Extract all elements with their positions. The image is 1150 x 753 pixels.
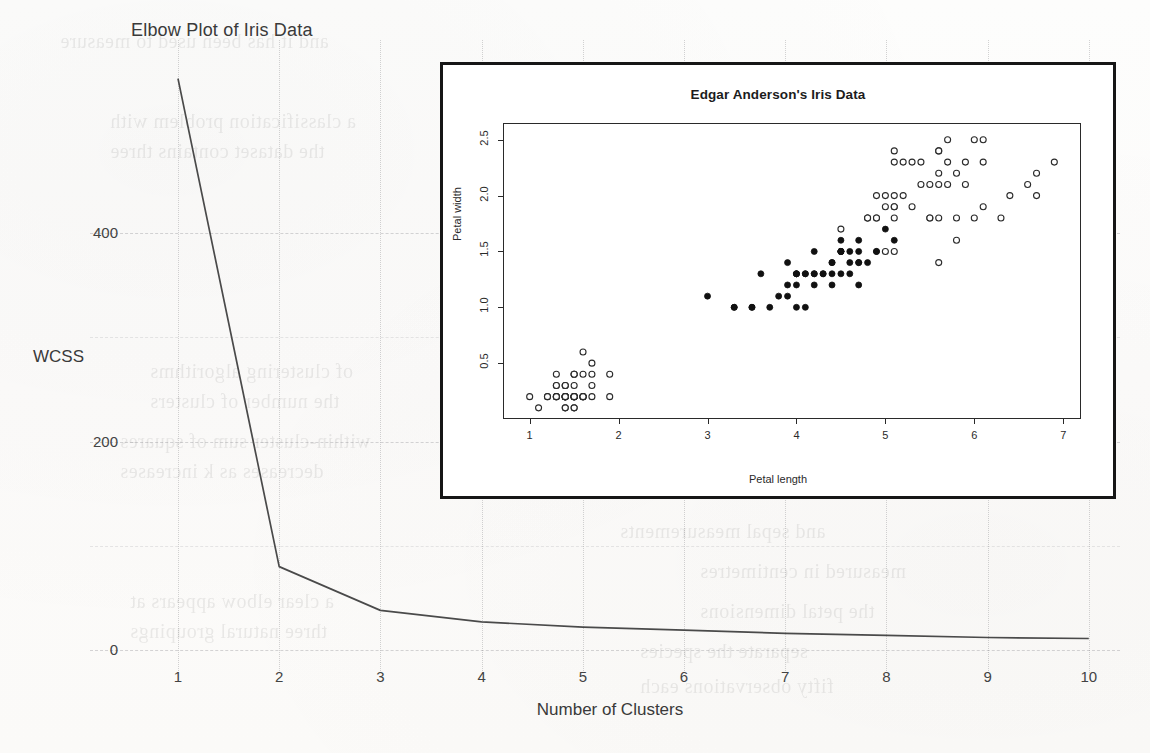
scatter-point-setosa (562, 405, 568, 411)
scatter-point-virginica (918, 159, 924, 165)
scatter-point-versicolor (811, 282, 817, 288)
iris-y-axis-label: Petal width (451, 187, 463, 241)
scatter-point-setosa (571, 405, 577, 411)
iris-x-tick-label: 5 (875, 429, 895, 441)
scatter-point-virginica (1007, 193, 1013, 199)
scatter-point-virginica (980, 137, 986, 143)
iris-x-tick-mark (885, 419, 886, 424)
scatter-point-setosa (580, 349, 586, 355)
elbow-y-tick-label: 400 (58, 224, 118, 241)
scatter-point-virginica (945, 181, 951, 187)
scatter-point-virginica (954, 215, 960, 221)
elbow-gridline-vertical (279, 40, 280, 673)
scatter-point-versicolor (838, 271, 844, 277)
scatter-point-virginica (927, 215, 933, 221)
page-title: Elbow Plot of Iris Data (131, 20, 313, 41)
scatter-point-versicolor (749, 304, 755, 310)
iris-scatter-points (503, 123, 1081, 419)
scatter-point-virginica (962, 159, 968, 165)
scatter-point-virginica (1051, 159, 1057, 165)
scatter-point-virginica (954, 170, 960, 176)
scatter-point-setosa (571, 394, 577, 400)
scatter-point-versicolor (838, 248, 844, 254)
scatter-point-setosa (553, 394, 559, 400)
scatter-point-setosa (527, 394, 533, 400)
scatter-point-versicolor (767, 304, 773, 310)
scatter-point-versicolor (856, 282, 862, 288)
scatter-point-setosa (589, 360, 595, 366)
scatter-point-virginica (838, 226, 844, 232)
elbow-y-tick-label: 200 (58, 433, 118, 450)
iris-x-tick-mark (796, 419, 797, 424)
scatter-point-virginica (900, 193, 906, 199)
elbow-gridline-horizontal (90, 650, 1120, 651)
scatter-point-setosa (589, 382, 595, 388)
scatter-point-virginica (900, 159, 906, 165)
scatter-point-virginica (936, 170, 942, 176)
scatter-point-versicolor (856, 248, 862, 254)
scatter-point-virginica (980, 159, 986, 165)
scatter-point-virginica (971, 137, 977, 143)
elbow-x-tick-label: 10 (1074, 668, 1104, 685)
iris-x-tick-label: 6 (964, 429, 984, 441)
scatter-point-virginica (936, 260, 942, 266)
scatter-point-versicolor (847, 260, 853, 266)
elbow-x-tick-label: 6 (669, 668, 699, 685)
scatter-point-virginica (1025, 181, 1031, 187)
scatter-point-versicolor (785, 293, 791, 299)
scatter-point-versicolor (785, 260, 791, 266)
scatter-point-virginica (891, 159, 897, 165)
scatter-point-setosa (580, 371, 586, 377)
scatter-point-virginica (882, 248, 888, 254)
iris-y-tick-label: 1.0 (478, 292, 490, 318)
scatter-point-versicolor (776, 293, 782, 299)
iris-x-tick-mark (619, 419, 620, 424)
scatter-point-virginica (936, 181, 942, 187)
scatter-point-setosa (580, 394, 586, 400)
scatter-point-virginica (891, 148, 897, 154)
scatter-point-virginica (945, 137, 951, 143)
iris-x-tick-label: 1 (520, 429, 540, 441)
scatter-point-setosa (607, 394, 613, 400)
scatter-point-virginica (891, 248, 897, 254)
iris-x-tick-label: 2 (609, 429, 629, 441)
scatter-point-virginica (891, 193, 897, 199)
iris-inset-figure: Edgar Anderson's Iris Data 0.51.01.52.02… (440, 62, 1116, 499)
scatter-point-virginica (1034, 193, 1040, 199)
iris-x-tick-mark (1063, 419, 1064, 424)
scatter-point-versicolor (891, 237, 897, 243)
scatter-point-versicolor (705, 293, 711, 299)
scatter-point-virginica (1034, 170, 1040, 176)
elbow-gridline-vertical (380, 40, 381, 673)
scatter-point-versicolor (802, 271, 808, 277)
scatter-point-virginica (936, 215, 942, 221)
scatter-point-virginica (865, 215, 871, 221)
scatter-point-virginica (909, 204, 915, 210)
scatter-point-setosa (607, 371, 613, 377)
scatter-point-virginica (971, 215, 977, 221)
iris-x-tick-label: 7 (1053, 429, 1073, 441)
scatter-point-versicolor (882, 226, 888, 232)
scatter-point-versicolor (802, 304, 808, 310)
iris-y-tick-label: 2.0 (478, 181, 490, 207)
scatter-point-versicolor (856, 237, 862, 243)
elbow-x-tick-label: 8 (871, 668, 901, 685)
iris-x-tick-label: 4 (786, 429, 806, 441)
elbow-x-tick-label: 4 (467, 668, 497, 685)
scatter-point-virginica (998, 215, 1004, 221)
iris-y-tick-label: 0.5 (478, 348, 490, 374)
scatter-point-virginica (954, 237, 960, 243)
scatter-point-virginica (873, 193, 879, 199)
scatter-point-virginica (927, 181, 933, 187)
elbow-gridline-horizontal (90, 546, 1120, 547)
scatter-point-virginica (980, 204, 986, 210)
iris-inset-title: Edgar Anderson's Iris Data (443, 87, 1113, 102)
scatter-point-versicolor (820, 271, 826, 277)
elbow-x-tick-label: 3 (365, 668, 395, 685)
scanned-page: and it has been used to measurea classif… (0, 0, 1150, 753)
scatter-point-versicolor (793, 282, 799, 288)
scatter-point-setosa (571, 382, 577, 388)
scatter-point-versicolor (793, 304, 799, 310)
iris-y-tick-label: 2.5 (478, 125, 490, 151)
scatter-point-setosa (562, 394, 568, 400)
